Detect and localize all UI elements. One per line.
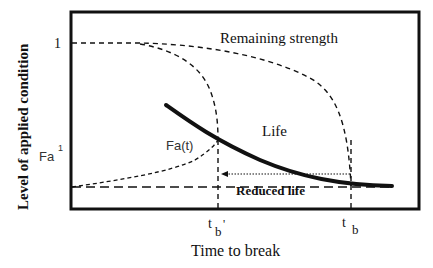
y-tick-fa-sup: 1 <box>58 143 63 153</box>
x-tick-tb: t <box>342 215 346 230</box>
life-curve <box>166 105 392 186</box>
x-tick-tb-sub: b <box>352 222 359 237</box>
y-axis-label: Level of applied condition <box>15 43 31 210</box>
fa-t-label: Fa(t) <box>166 138 193 153</box>
reduced-life-label: Reduced life <box>236 183 305 198</box>
y-tick-one: 1 <box>54 36 61 51</box>
arrowhead-icon <box>221 171 228 177</box>
remaining-strength-curve-short <box>140 44 218 140</box>
diagram-canvas: Remaining strength Life Fa(t) Reduced li… <box>0 0 433 268</box>
x-axis-label: Time to break <box>191 242 280 259</box>
x-tick-tb-prime-mark: ' <box>223 217 225 231</box>
remaining-strength-label: Remaining strength <box>220 30 338 46</box>
x-tick-tb-prime-sub: b <box>215 224 222 239</box>
fa-t-curve <box>72 140 218 187</box>
y-tick-fa: Fa <box>39 149 55 164</box>
x-tick-tb-prime: t <box>208 216 212 231</box>
remaining-strength-curve-long <box>72 43 351 186</box>
life-label: Life <box>262 123 287 139</box>
